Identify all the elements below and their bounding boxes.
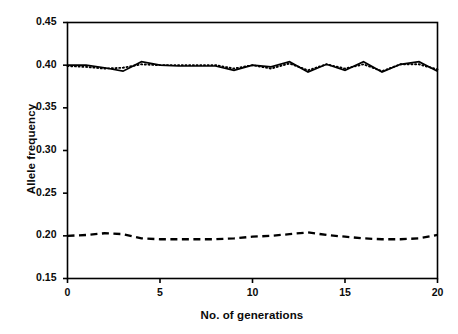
x-tick-label: 15 [325, 286, 365, 298]
y-tick-label: 0.30 [17, 143, 57, 155]
x-axis-label: No. of generations [67, 309, 437, 321]
axes [63, 23, 438, 284]
y-tick-label: 0.40 [17, 58, 57, 70]
y-tick-label: 0.25 [17, 186, 57, 198]
y-tick-label: 0.15 [17, 271, 57, 283]
x-tick-label: 5 [140, 286, 180, 298]
x-tick-label: 10 [233, 286, 273, 298]
y-tick-label: 0.20 [17, 228, 57, 240]
chart-figure: Allele frequency No. of generations 0.15… [0, 0, 458, 334]
y-tick-label: 0.45 [17, 15, 57, 27]
series-dotted-line [68, 63, 438, 71]
data-series [68, 62, 438, 240]
plot-canvas [0, 0, 458, 334]
y-tick-label: 0.35 [17, 100, 57, 112]
x-tick-label: 0 [48, 286, 88, 298]
series-dashed-line [68, 232, 438, 239]
x-tick-label: 20 [418, 286, 458, 298]
